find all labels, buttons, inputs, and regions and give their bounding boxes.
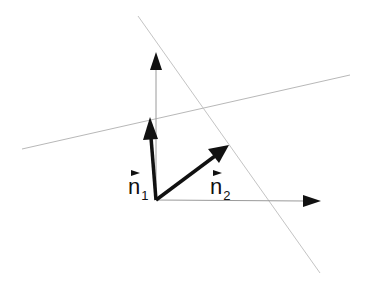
- vector-hat-icon: [213, 170, 222, 176]
- label-n1: n1: [128, 176, 147, 198]
- label-n1-subscript: 1: [141, 188, 148, 203]
- vector-n1: [151, 135, 156, 200]
- vertical-axis-arrowhead: [150, 52, 162, 70]
- normal-vectors-diagram: n1 n2: [0, 0, 365, 283]
- horizontal-axis: [156, 200, 305, 201]
- diagram-svg: [0, 0, 365, 283]
- line-2: [138, 16, 320, 273]
- label-n2-base: n: [210, 174, 222, 199]
- horizontal-axis-arrowhead: [303, 195, 321, 207]
- label-n1-base: n: [128, 174, 140, 199]
- label-n2-subscript: 2: [223, 188, 230, 203]
- line-1: [22, 75, 350, 149]
- vector-n2: [156, 156, 215, 200]
- vector-hat-icon: [131, 170, 140, 176]
- label-n2: n2: [210, 176, 229, 198]
